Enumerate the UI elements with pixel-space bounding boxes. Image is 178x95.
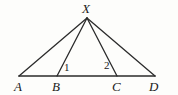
segment-group bbox=[19, 18, 155, 76]
segment-cevian-X-A bbox=[19, 18, 87, 76]
vertex-label-C: C bbox=[112, 80, 121, 93]
vertex-label-A: A bbox=[14, 80, 22, 93]
angle-label-2: 2 bbox=[104, 60, 110, 71]
angle-label-1: 1 bbox=[64, 62, 70, 73]
vertex-label-B: B bbox=[52, 80, 60, 93]
segment-cevian-X-B bbox=[57, 18, 87, 76]
geometry-figure: X A B C D 1 2 bbox=[0, 0, 178, 95]
vertex-label-X: X bbox=[82, 2, 90, 15]
segment-cevian-X-C bbox=[87, 18, 117, 76]
segment-cevian-X-D bbox=[87, 18, 155, 76]
vertex-label-D: D bbox=[149, 80, 158, 93]
